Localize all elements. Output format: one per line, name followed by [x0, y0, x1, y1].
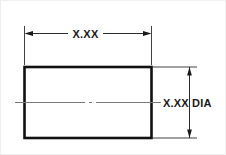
length-dimension-label: X.XX: [73, 28, 99, 40]
arrowhead-left-icon: [25, 31, 34, 36]
diameter-dimension-label: X.XX DIA: [163, 97, 212, 109]
arrowhead-down-icon: [187, 130, 192, 139]
engineering-drawing: X.XX X.XX DIA: [0, 0, 226, 155]
arrowhead-right-icon: [143, 31, 152, 36]
arrowhead-up-icon: [187, 67, 192, 76]
drawing-canvas: X.XX X.XX DIA: [1, 1, 226, 155]
